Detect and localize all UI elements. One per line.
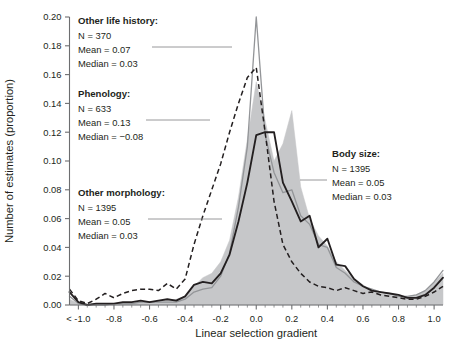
annotation-phenology-mean: Mean = 0.13 <box>78 117 130 128</box>
annotation-other-morphology-n: N = 1395 <box>78 202 116 213</box>
annotation-other-life-history: Other life history:N = 370Mean = 0.07Med… <box>78 15 232 69</box>
annotation-other-life-history-median: Median = 0.03 <box>78 58 138 69</box>
y-tick-label: 0.20 <box>43 11 61 22</box>
annotation-phenology: Phenology:N = 633Mean = 0.13Median = −0.… <box>78 88 210 142</box>
x-tick-label: 0.0 <box>250 313 263 324</box>
y-tick-label: 0.04 <box>43 242 61 253</box>
annotation-body-size-median: Median = 0.03 <box>332 191 392 202</box>
x-tick-label: -0.4 <box>177 313 193 324</box>
y-tick-label: 0.10 <box>43 155 61 166</box>
y-tick-label: 0.16 <box>43 69 61 80</box>
x-tick-label: 0.4 <box>321 313 334 324</box>
annotation-other-morphology-median: Median = 0.03 <box>78 230 138 241</box>
y-tick-label: 0.00 <box>43 299 61 310</box>
y-tick-label: 0.14 <box>43 98 61 109</box>
annotation-body-size-mean: Mean = 0.05 <box>332 177 384 188</box>
annotation-other-morphology-mean: Mean = 0.05 <box>78 216 130 227</box>
y-tick-label: 0.18 <box>43 40 61 51</box>
annotation-phenology-n: N = 633 <box>78 103 111 114</box>
annotation-body-size-title: Body size: <box>332 148 380 159</box>
annotation-other-life-history-mean: Mean = 0.07 <box>78 44 130 55</box>
y-tick-label: 0.08 <box>43 184 61 195</box>
x-axis-title: Linear selection gradient <box>195 327 318 339</box>
x-tick-label: 0.6 <box>356 313 369 324</box>
x-tick-label: -0.8 <box>106 313 122 324</box>
x-tick-label: 0.8 <box>392 313 405 324</box>
selection-gradient-histogram-figure: 0.000.020.040.060.080.100.120.140.160.18… <box>0 0 449 364</box>
y-axis-title: Number of estimates (proportion) <box>3 79 15 243</box>
annotation-phenology-median: Median = −0.08 <box>78 131 143 142</box>
x-tick-label: -0.2 <box>213 313 229 324</box>
x-tick-label: -0.6 <box>141 313 157 324</box>
annotation-other-life-history-n: N = 370 <box>78 30 111 41</box>
chart-svg: 0.000.020.040.060.080.100.120.140.160.18… <box>0 0 449 364</box>
y-tick-label: 0.02 <box>43 271 61 282</box>
y-tick-label: 0.06 <box>43 213 61 224</box>
annotation-phenology-title: Phenology: <box>78 88 130 99</box>
x-tick-label: < -1.0 <box>66 313 90 324</box>
annotation-other-morphology: Other morphology:N = 1395Mean = 0.05Medi… <box>78 187 222 241</box>
annotation-body-size: Body size:N = 1395Mean = 0.05Median = 0.… <box>300 148 392 202</box>
annotation-other-life-history-title: Other life history: <box>78 15 158 26</box>
x-tick-label: 0.2 <box>285 313 298 324</box>
y-tick-label: 0.12 <box>43 127 61 138</box>
annotation-other-morphology-title: Other morphology: <box>78 187 165 198</box>
annotation-body-size-n: N = 1395 <box>332 163 370 174</box>
x-tick-label: 1.0 <box>428 313 441 324</box>
